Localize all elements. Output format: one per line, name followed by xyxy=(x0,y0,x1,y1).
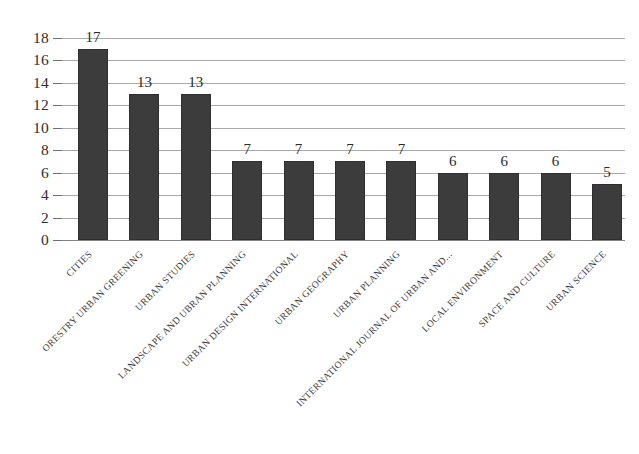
bar-value-label: 13 xyxy=(119,75,169,90)
bar-value-label: 6 xyxy=(479,154,529,169)
y-axis-tick-label: 10 xyxy=(9,120,49,136)
bar xyxy=(438,173,468,240)
y-axis-tick xyxy=(53,128,62,129)
gridline xyxy=(62,38,625,39)
bar-value-label: 6 xyxy=(428,154,478,169)
x-axis-category-label: ORESTRY URBAN GREENING xyxy=(41,249,145,353)
y-axis-tick xyxy=(53,38,62,39)
y-axis-tick-label: 14 xyxy=(9,75,49,91)
gridline xyxy=(62,60,625,61)
y-axis-tick-label: 2 xyxy=(9,210,49,226)
bar xyxy=(78,49,108,240)
bar xyxy=(541,173,571,240)
x-axis-category-label: CITIES xyxy=(64,249,93,278)
bar-chart: 024681012141618 17131377776665 CITIESORE… xyxy=(0,0,639,454)
y-axis-tick xyxy=(53,195,62,196)
y-axis-tick xyxy=(53,218,62,219)
bar-value-label: 7 xyxy=(376,142,426,157)
y-axis-tick-label: 16 xyxy=(9,52,49,68)
bar-value-label: 13 xyxy=(171,75,221,90)
y-axis-tick xyxy=(53,60,62,61)
left-edge-clip-mask xyxy=(0,246,4,454)
plot-area xyxy=(62,38,625,240)
y-axis-tick-label: 12 xyxy=(9,97,49,113)
gridline xyxy=(62,240,625,241)
y-axis-tick-label: 4 xyxy=(9,187,49,203)
y-axis-tick xyxy=(53,105,62,106)
bar-value-label: 7 xyxy=(325,142,375,157)
y-axis-tick xyxy=(53,83,62,84)
y-axis-tick xyxy=(53,173,62,174)
bar-value-label: 7 xyxy=(274,142,324,157)
y-axis-tick-label: 6 xyxy=(9,165,49,181)
bar xyxy=(181,94,211,240)
y-axis-tick xyxy=(53,150,62,151)
bar xyxy=(489,173,519,240)
bar-value-label: 5 xyxy=(582,165,632,180)
bar xyxy=(386,161,416,240)
y-axis-tick xyxy=(53,240,62,241)
bar-value-label: 7 xyxy=(222,142,272,157)
bar xyxy=(129,94,159,240)
y-axis-tick-label: 0 xyxy=(9,232,49,248)
y-axis-tick-label: 8 xyxy=(9,142,49,158)
y-axis-tick-label: 18 xyxy=(9,30,49,46)
bar xyxy=(335,161,365,240)
bar xyxy=(232,161,262,240)
bar-value-label: 17 xyxy=(68,30,118,45)
bar xyxy=(284,161,314,240)
bar-value-label: 6 xyxy=(531,154,581,169)
bar xyxy=(592,184,622,240)
